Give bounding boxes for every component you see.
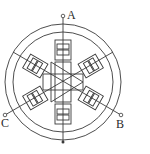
phase-c-lead: [5, 52, 113, 115]
winding-triangle: [51, 62, 83, 102]
common-node: [62, 141, 65, 144]
terminal-a: [61, 14, 65, 18]
label-c: C: [1, 116, 9, 130]
phase-b-lead: [13, 52, 121, 115]
label-a: A: [67, 8, 76, 22]
label-b: B: [116, 117, 124, 131]
stepper-motor-diagram: A B C: [0, 0, 150, 154]
